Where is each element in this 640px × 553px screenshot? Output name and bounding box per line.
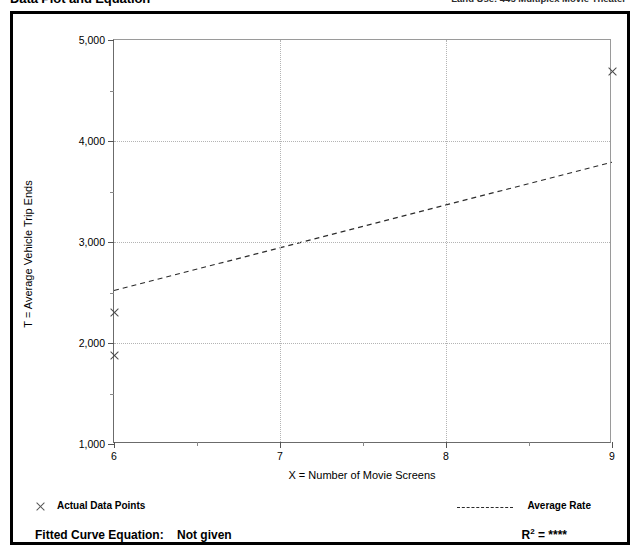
x-marker-icon (35, 501, 46, 512)
y-axis-title: T = Average Vehicle Trip Ends (22, 180, 34, 327)
y-axis-tick (108, 141, 114, 142)
fitted-curve-value: Not given (177, 528, 232, 542)
y-axis-minor-tick (110, 394, 114, 395)
y-axis-tick-label: 5,000 (79, 34, 105, 46)
r-squared-value: R2 = **** (522, 527, 568, 542)
x-axis-tick (114, 442, 115, 448)
fitted-curve-label: Fitted Curve Equation: (35, 528, 164, 542)
data-point-marker (109, 350, 120, 361)
x-axis-minor-tick (197, 442, 198, 446)
legend-label-average-rate: Average Rate (527, 500, 591, 511)
plot-area: 67891,0002,0003,0004,0005,000 (113, 39, 611, 443)
x-axis-tick (446, 442, 447, 448)
data-point-marker (109, 307, 120, 318)
y-axis-tick-label: 4,000 (79, 135, 105, 147)
data-point-marker (607, 66, 618, 77)
x-axis-tick-label: 7 (277, 450, 283, 462)
gridline-horizontal (114, 242, 610, 243)
y-axis-minor-tick (110, 293, 114, 294)
y-axis-tick (108, 40, 114, 41)
x-axis-minor-tick (529, 442, 530, 446)
y-axis-minor-tick (110, 192, 114, 193)
r-squared-stars: **** (548, 528, 567, 542)
gridline-horizontal (114, 141, 610, 142)
chart-legend: Actual Data Points Average Rate (13, 498, 633, 520)
y-axis-tick (108, 343, 114, 344)
dashed-line-icon (457, 507, 513, 508)
x-axis-tick-label: 8 (443, 450, 449, 462)
y-axis-minor-tick (110, 91, 114, 92)
y-axis-tick (108, 242, 114, 243)
chart-container: T = Average Vehicle Trip Ends X = Number… (13, 14, 633, 494)
fitted-curve-equation: Fitted Curve Equation: Not given (35, 528, 232, 542)
r-squared-label: R (522, 528, 531, 542)
content-frame: T = Average Vehicle Trip Ends X = Number… (10, 11, 630, 545)
x-axis-tick (280, 442, 281, 448)
y-axis-tick-label: 1,000 (79, 438, 105, 450)
gridline-vertical (446, 40, 447, 442)
r-squared-equals: = (535, 528, 549, 542)
land-use-caption: Land Use: 445 Multiplex Movie Theater (451, 0, 626, 4)
page-title: Data Plot and Equation (10, 0, 150, 6)
y-axis-tick (108, 444, 114, 445)
y-axis-tick-label: 2,000 (79, 337, 105, 349)
x-axis-title: X = Number of Movie Screens (113, 469, 611, 481)
x-axis-tick-label: 9 (609, 450, 615, 462)
x-axis-tick-label: 6 (111, 450, 117, 462)
gridline-vertical (280, 40, 281, 442)
gridline-horizontal (114, 343, 610, 344)
x-axis-minor-tick (363, 442, 364, 446)
x-axis-tick (612, 442, 613, 448)
legend-label-actual-data-points: Actual Data Points (57, 500, 145, 511)
y-axis-tick-label: 3,000 (79, 236, 105, 248)
equation-row: Fitted Curve Equation: Not given R2 = **… (13, 526, 633, 550)
